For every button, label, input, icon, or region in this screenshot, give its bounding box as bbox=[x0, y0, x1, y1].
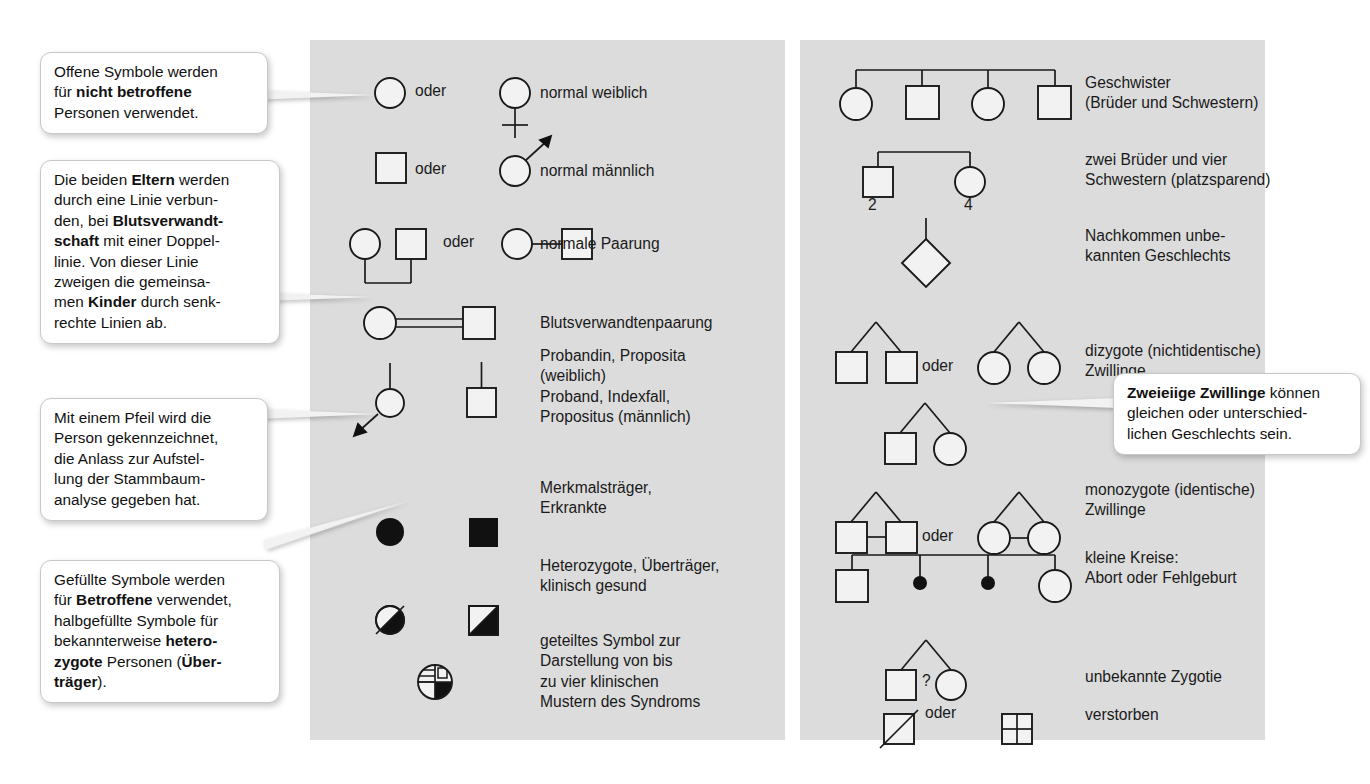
oder-label-normal-male: oder bbox=[415, 160, 446, 178]
callout-tail-dizygotic-twins bbox=[985, 398, 1117, 408]
callout-tail-proband-arrow bbox=[258, 409, 378, 419]
callout-parents-line: Die beiden Eltern werden durch eine Lini… bbox=[40, 160, 280, 344]
oder-label-dizygotic: oder bbox=[922, 357, 953, 375]
label-sibship-condensed: zwei Brüder und vier Schwestern (platzsp… bbox=[1085, 150, 1270, 191]
sibship-count-sisters: 4 bbox=[964, 196, 973, 214]
callout-filled-symbols: Gefüllte Symbole werden für Betroffene v… bbox=[40, 560, 280, 703]
label-affected: Merkmalsträger, Erkrankte bbox=[540, 478, 652, 519]
callout-proband-arrow-text: Mit einem Pfeil wird die Person gekennze… bbox=[54, 409, 218, 508]
callout-filled-symbols-text: Gefüllte Symbole werden für Betroffene v… bbox=[54, 571, 232, 690]
label-deceased: verstorben bbox=[1085, 705, 1159, 725]
callout-dizygotic-twins-text: Zweieiige Zwillinge können gleichen oder… bbox=[1127, 384, 1320, 442]
label-normal-mating: normale Paarung bbox=[540, 234, 660, 254]
sibship-count-brothers: 2 bbox=[868, 196, 877, 214]
label-normal-female: normal weiblich bbox=[540, 83, 647, 103]
label-unknown-sex: Nachkommen unbe- kannten Geschlechts bbox=[1085, 226, 1231, 267]
label-consanguineous-mating: Blutsverwandtenpaarung bbox=[540, 313, 713, 333]
oder-label-normal-female: oder bbox=[415, 82, 446, 100]
label-proband: Probandin, Proposita (weiblich) Proband,… bbox=[540, 346, 691, 427]
label-heterozygote: Heterozygote, Überträger, klinisch gesun… bbox=[540, 556, 719, 597]
oder-label-deceased: oder bbox=[925, 704, 956, 722]
label-unknown-zygosity: unbekannte Zygotie bbox=[1085, 667, 1222, 687]
callout-dizygotic-twins: Zweieiige Zwillinge können gleichen oder… bbox=[1113, 373, 1361, 455]
callout-open-symbols: Offene Symbole werden für nicht betroffe… bbox=[40, 52, 268, 134]
label-siblings: Geschwister (Brüder und Schwestern) bbox=[1085, 73, 1258, 114]
label-quartered-symbol: geteiltes Symbol zur Darstellung von bis… bbox=[540, 631, 700, 712]
label-monozygotic: monozygote (identische) Zwillinge bbox=[1085, 480, 1255, 521]
callout-parents-line-text: Die beiden Eltern werden durch eine Lini… bbox=[54, 171, 229, 331]
oder-label-monozygotic: oder bbox=[922, 527, 953, 545]
label-normal-male: normal männlich bbox=[540, 161, 654, 181]
label-abortion: kleine Kreise: Abort oder Fehlgeburt bbox=[1085, 548, 1237, 589]
callout-proband-arrow: Mit einem Pfeil wird die Person gekennze… bbox=[40, 398, 268, 521]
question-mark-unknown-zygosity: ? bbox=[922, 672, 931, 690]
oder-label-normal-mating: oder bbox=[443, 233, 474, 251]
callout-open-symbols-text: Offene Symbole werden für nicht betroffe… bbox=[54, 63, 218, 121]
callout-tail-open-symbols bbox=[252, 90, 374, 100]
